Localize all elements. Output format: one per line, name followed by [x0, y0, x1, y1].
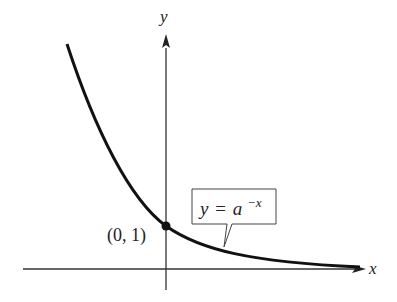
y-intercept-point [162, 222, 171, 231]
y-axis-label: y [158, 7, 168, 26]
callout-exponent: −x [247, 195, 262, 210]
x-axis-label: x [368, 259, 377, 278]
point-label: (0, 1) [107, 225, 146, 246]
callout-a: a [233, 198, 243, 219]
y-axis-arrow-icon [162, 34, 170, 48]
exponential-decay-graph: x y (0, 1) y = a −x [0, 0, 397, 302]
callout-equals: = [215, 198, 226, 219]
callout-y: y [198, 198, 209, 219]
